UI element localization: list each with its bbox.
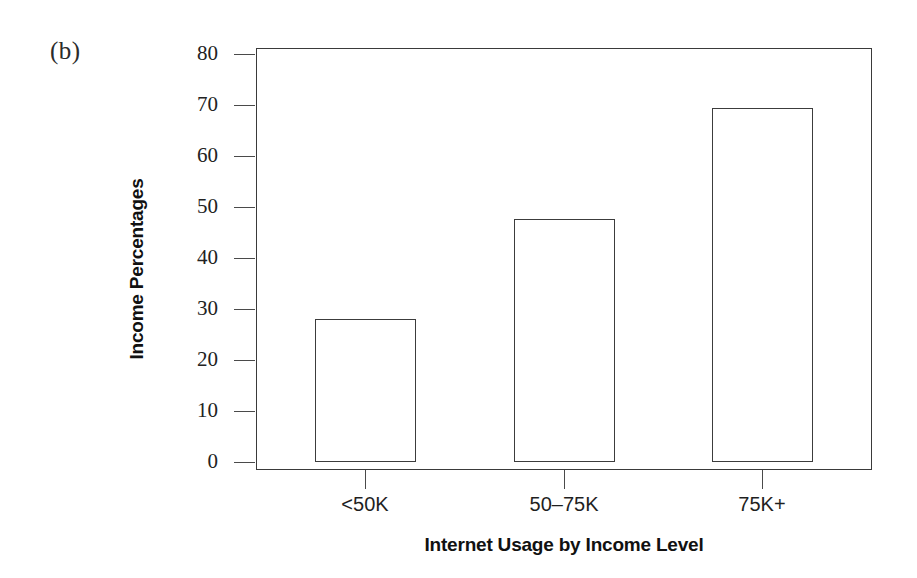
y-tick-mark [234, 411, 255, 412]
y-tick-label: 20 [158, 349, 218, 370]
x-tick-mark [564, 470, 565, 489]
x-axis-title: Internet Usage by Income Level [256, 534, 872, 556]
y-tick-mark [234, 360, 255, 361]
x-tick-mark [365, 470, 366, 489]
bar-75k- [712, 108, 813, 462]
y-tick-mark [234, 309, 255, 310]
y-tick-label: 30 [158, 298, 218, 319]
bar-50-75k [514, 219, 615, 462]
y-tick-mark [234, 105, 255, 106]
x-tick-mark [762, 470, 763, 489]
y-tick-label: 70 [158, 94, 218, 115]
y-tick-label: 80 [158, 43, 218, 64]
y-tick-label: 0 [158, 451, 218, 472]
figure-panel-b: (b) Income Percentages 01020304050607080… [0, 0, 917, 578]
y-tick-mark [234, 156, 255, 157]
y-axis: Income Percentages [0, 0, 256, 578]
y-tick-label: 10 [158, 400, 218, 421]
y-tick-label: 40 [158, 247, 218, 268]
x-tick-label: 50–75K [484, 494, 644, 514]
x-tick-label: 75K+ [682, 494, 842, 514]
x-tick-label: <50K [285, 494, 445, 514]
y-tick-mark [234, 462, 255, 463]
y-tick-label: 60 [158, 145, 218, 166]
y-tick-label: 50 [158, 196, 218, 217]
bar--50k [315, 319, 416, 462]
y-axis-title: Income Percentages [126, 119, 148, 419]
y-tick-mark [234, 258, 255, 259]
y-tick-mark [234, 54, 255, 55]
y-tick-mark [234, 207, 255, 208]
